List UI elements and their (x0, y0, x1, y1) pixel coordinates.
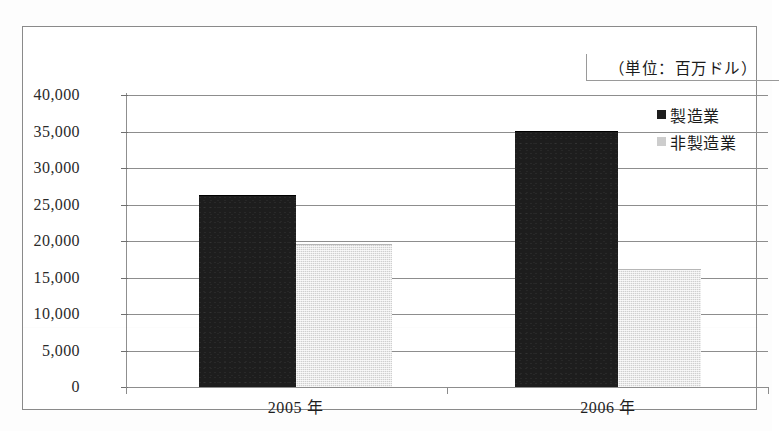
y-axis-tick (121, 132, 128, 133)
y-axis-label: 20,000 (0, 232, 80, 250)
x-axis-label: 2005 年 (216, 394, 376, 418)
y-axis-label: 0 (0, 378, 80, 396)
x-axis-label: 2006 年 (528, 394, 688, 418)
bar-2005年-製造業 (199, 195, 296, 387)
y-axis-label: 35,000 (0, 123, 80, 141)
gridline (127, 95, 768, 96)
legend-label: 製造業 (670, 103, 720, 127)
legend-item-製造業: 製造業 (657, 101, 775, 128)
bar-2006年-非製造業 (618, 269, 701, 387)
y-axis-label: 15,000 (0, 269, 80, 287)
y-axis-label: 5,000 (0, 342, 80, 360)
x-axis-tick (447, 387, 448, 394)
unit-caption: （単位：百万ドル） (586, 54, 779, 81)
y-axis-tick (121, 168, 128, 169)
bar-2006年-製造業 (515, 131, 618, 387)
y-axis-tick (121, 314, 128, 315)
y-axis-tick (121, 351, 128, 352)
legend-item-非製造業: 非製造業 (657, 128, 775, 155)
y-axis-tick (121, 241, 128, 242)
y-axis-label: 10,000 (0, 305, 80, 323)
x-axis-tick (768, 387, 769, 394)
gridline (127, 168, 768, 169)
y-axis-tick (121, 278, 128, 279)
y-axis-tick (121, 205, 128, 206)
y-axis-label: 30,000 (0, 159, 80, 177)
y-axis-label: 40,000 (0, 86, 80, 104)
y-axis-tick (121, 95, 128, 96)
x-axis-tick (126, 387, 127, 394)
legend-swatch-light-icon (657, 137, 666, 146)
legend-label: 非製造業 (670, 130, 736, 154)
chart-legend: 製造業非製造業 (657, 101, 775, 155)
bar-2005年-非製造業 (296, 244, 392, 387)
y-axis-label: 25,000 (0, 196, 80, 214)
legend-swatch-dark-icon (657, 110, 666, 119)
chart-frame: （単位：百万ドル） 40,00035,00030,00025,00020,000… (22, 26, 757, 410)
